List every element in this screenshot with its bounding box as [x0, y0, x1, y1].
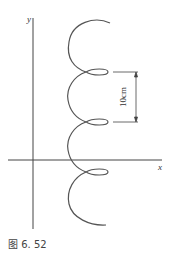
figure: y x 10cm 图 6. 52 [0, 0, 173, 257]
figure-caption: 图 6. 52 [8, 236, 47, 251]
y-axis-label: y [27, 15, 31, 24]
dimension-label: 10cm [118, 87, 128, 107]
diagram-canvas [0, 0, 173, 257]
spiral-curve [68, 20, 110, 225]
x-axis-label: x [158, 163, 162, 172]
